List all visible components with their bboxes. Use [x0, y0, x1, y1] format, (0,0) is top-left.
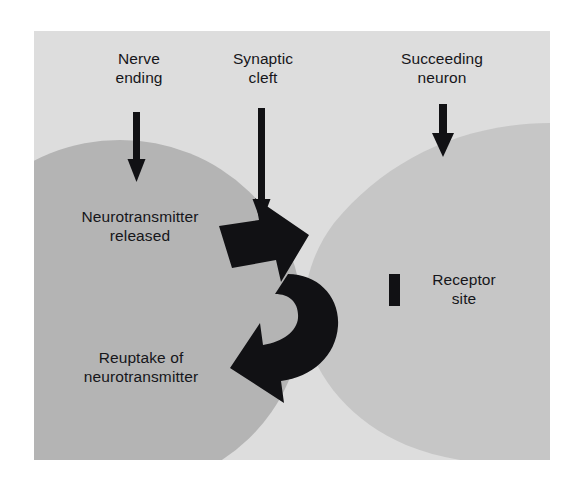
label-synaptic-cleft: Synaptic cleft: [197, 50, 329, 88]
receptor-site-marker: [389, 274, 400, 306]
figure-root: Nerve ending Synaptic cleft Succeeding n…: [0, 0, 581, 489]
diagram-canvas: Nerve ending Synaptic cleft Succeeding n…: [34, 31, 550, 460]
label-receptor-site: Receptor site: [403, 271, 525, 309]
label-neurotransmitter-released: Neurotransmitter released: [40, 208, 240, 246]
label-succeeding-neuron: Succeeding neuron: [360, 50, 524, 88]
label-nerve-ending: Nerve ending: [74, 50, 204, 88]
label-reuptake-of-neurotransmitter: Reuptake of neurotransmitter: [36, 349, 246, 387]
